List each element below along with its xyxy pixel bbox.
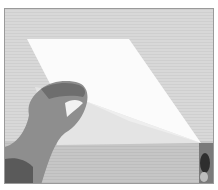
paper-folding-illustration xyxy=(5,9,214,184)
right-hand xyxy=(199,143,214,184)
photo-frame xyxy=(0,0,218,190)
photograph xyxy=(4,8,214,184)
